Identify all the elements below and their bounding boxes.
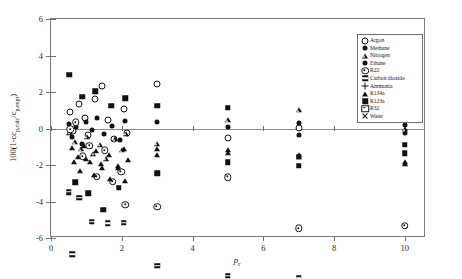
legend-label: Carbon dioxide [370, 75, 405, 82]
data-point [93, 149, 99, 154]
data-point [122, 201, 130, 209]
legend-item[interactable]: Carbon dioxide [361, 75, 420, 82]
data-point [123, 131, 129, 136]
data-point [225, 118, 231, 123]
legend-item[interactable]: Water [361, 113, 420, 120]
legend-item[interactable]: Methane [361, 45, 420, 52]
y-tick-inner [51, 92, 56, 93]
data-point [75, 100, 82, 107]
data-point [77, 195, 83, 201]
data-point [225, 105, 231, 111]
legend-item[interactable]: R32 [361, 105, 420, 112]
data-point [296, 276, 302, 279]
y-tick-label: -2 [36, 160, 43, 170]
data-point [71, 160, 77, 165]
filled-square-icon [361, 98, 370, 105]
y-tick-label: 6 [39, 14, 43, 24]
data-point [92, 96, 99, 103]
data-point [296, 154, 302, 160]
legend-label: Water [370, 113, 383, 120]
y-tick-label: -4 [36, 197, 43, 207]
data-point [154, 263, 160, 269]
data-point [79, 153, 87, 161]
data-point [89, 219, 95, 225]
filled-triangle-icon [361, 90, 370, 97]
y-tick-inner [51, 165, 56, 166]
data-point [85, 142, 93, 150]
legend-item[interactable]: R123a [361, 98, 420, 105]
data-point [296, 132, 301, 137]
legend-label: R134a [370, 90, 385, 97]
y-tick-label: 4 [39, 51, 43, 61]
data-point [66, 121, 71, 126]
figure: 100(1-ccp,calc/cp,expt) 6420-2-4-6 02468… [0, 0, 462, 279]
y-axis-title: 100(1-ccp,calc/cp,expt) [8, 94, 20, 162]
legend-item[interactable]: R22 [361, 67, 420, 74]
x-tick-label: 6 [261, 243, 265, 253]
data-point [83, 156, 89, 161]
y-tick-label: 2 [39, 87, 43, 97]
data-point [81, 143, 87, 148]
data-point [225, 150, 231, 155]
data-point [117, 168, 125, 176]
filled-circle-icon [361, 60, 370, 67]
data-point [296, 163, 302, 169]
data-point [120, 106, 127, 113]
data-point [296, 108, 302, 113]
data-point [102, 131, 107, 136]
data-point [154, 141, 160, 146]
x-tick-label: 10 [401, 243, 410, 253]
plus-icon [361, 83, 370, 90]
data-point [77, 169, 83, 174]
legend-label: R32 [370, 105, 379, 112]
x-tick-label: 2 [120, 243, 124, 253]
x-tick [122, 236, 123, 241]
data-point [78, 147, 84, 152]
data-point [67, 109, 74, 116]
data-point [154, 152, 160, 157]
data-point [97, 142, 103, 147]
data-point [117, 138, 122, 143]
data-point [153, 203, 161, 211]
legend-label: R22 [370, 67, 379, 74]
legend-item[interactable]: Ammonia [361, 82, 420, 89]
data-point [224, 173, 232, 181]
data-point [66, 189, 72, 195]
data-point [296, 152, 302, 157]
data-point [94, 115, 99, 120]
legend-label: R123a [370, 98, 385, 105]
data-point [115, 163, 121, 168]
data-point [99, 82, 106, 89]
data-point [91, 172, 97, 177]
open-circle-icon [361, 37, 370, 44]
x-tick-on-zero-line [122, 126, 123, 131]
data-point [122, 179, 128, 184]
data-point [87, 160, 93, 165]
legend-item[interactable]: Nitrogen [361, 52, 420, 59]
data-point [401, 222, 409, 230]
dotted-square-icon [361, 105, 370, 112]
data-point [81, 115, 88, 122]
data-point [105, 221, 111, 227]
legend-item[interactable]: Argon [361, 37, 420, 44]
data-point [92, 88, 98, 94]
data-point [121, 147, 127, 152]
data-point [296, 154, 302, 159]
legend-label: Argon [370, 37, 384, 44]
legend-label: Nitrogen [370, 52, 390, 59]
legend-item[interactable]: R134a [361, 90, 420, 97]
data-point [72, 119, 80, 127]
data-point [90, 151, 96, 156]
x-tick [263, 236, 264, 241]
data-point [69, 145, 75, 150]
data-point [123, 119, 128, 124]
data-point [124, 130, 131, 137]
legend-item[interactable]: Ethane [361, 60, 420, 67]
data-point [79, 94, 85, 100]
x-tick-on-zero-line [405, 126, 406, 131]
data-point [224, 134, 231, 141]
x-axis-title: pr [234, 255, 241, 267]
x-tick-label: 4 [190, 243, 194, 253]
data-point [107, 176, 113, 181]
crossed-square-icon [361, 75, 370, 82]
